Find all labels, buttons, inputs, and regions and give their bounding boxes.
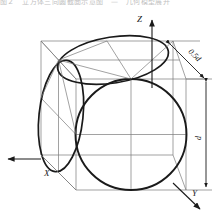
diameter-dimension [186, 79, 212, 190]
figure-root: 图２ 立方体三向圆截面示意图 — 几何模型展开 [0, 0, 220, 219]
diameter-label: d [194, 135, 203, 140]
corner-construction-rays [41, 41, 173, 190]
technical-diagram: Z X Y 0.5d [0, 0, 220, 219]
half-diameter-label: 0.5d [187, 47, 204, 64]
z-axis-label: Z [137, 14, 143, 24]
y-axis-label: Y [192, 188, 198, 198]
x-axis-label: X [43, 168, 50, 178]
